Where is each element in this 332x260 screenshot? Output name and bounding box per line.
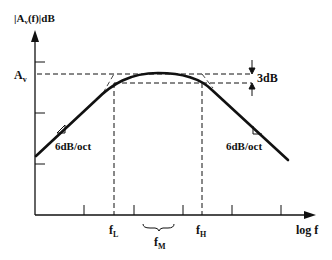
f-mid-label: fM (154, 235, 166, 251)
y-axis (31, 30, 45, 215)
y-axis-label: |Av(f)|dB (14, 12, 55, 26)
x-axis-label: log f (296, 223, 319, 237)
f-mid-brace (143, 224, 174, 231)
f-high-label: fH (196, 223, 207, 239)
x-axis (35, 205, 316, 219)
left-slope-label: 6dB/oct (55, 140, 91, 152)
f-low-label: fL (109, 223, 118, 239)
3db-label: 3dB (257, 71, 278, 85)
gain-label: Av (14, 68, 27, 84)
3db-marker (249, 60, 255, 96)
y-axis-arrow-icon (31, 30, 39, 42)
x-axis-arrow-icon (304, 211, 316, 219)
bandwidth-diagram: |Av(f)|dB Av 3dB 6dB/oct 6dB/oct fL fH f… (0, 0, 332, 260)
right-slope-label: 6dB/oct (226, 140, 262, 152)
